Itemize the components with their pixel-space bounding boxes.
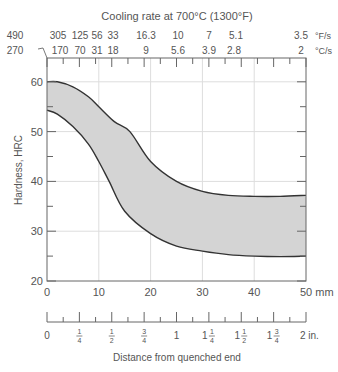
svg-text:1: 1 [202, 330, 208, 341]
leader-arrow-icon [38, 48, 47, 58]
x-tick-label-in: 14 [76, 328, 82, 344]
svg-text:2: 2 [242, 337, 246, 344]
svg-text:2: 2 [110, 337, 114, 344]
x-axis-mm: 01020304050 mm [44, 286, 334, 298]
svg-text:1: 1 [267, 330, 273, 341]
x-tick-label-in: 2 in. [300, 330, 319, 341]
y-tick-label: 40 [31, 175, 43, 187]
y-axis-label: Hardness, HRC [13, 135, 24, 205]
x-tick-label-in: 1 [174, 330, 180, 341]
cooling-rate-c-label: 2 [298, 45, 304, 56]
x-tick-label-mm: 0 [44, 286, 50, 298]
x-axis-label: Distance from quenched end [113, 352, 241, 363]
x-axis-inches: 014123411141121342 in. [44, 312, 319, 344]
cooling-rate-f-label: 56 [91, 30, 103, 41]
x-tick-label-in: 0 [44, 330, 50, 341]
x-tick-label-in: 34 [141, 328, 147, 344]
cooling-rate-f-label: 10 [172, 30, 184, 41]
x-tick-label-in: 12 [109, 328, 115, 344]
cooling-rate-f-label: 16.3 [136, 30, 156, 41]
cooling-rate-f-label: 7 [206, 30, 212, 41]
svg-text:1: 1 [77, 328, 81, 335]
svg-text:4: 4 [142, 337, 146, 344]
cooling-rate-f-label: 125 [72, 30, 89, 41]
svg-text:1: 1 [242, 328, 246, 335]
x-tick-label-mm: 30 [196, 286, 208, 298]
hardness-band [47, 81, 306, 256]
cooling-rate-f-label: 305 [50, 30, 67, 41]
jominy-hardness-chart: Cooling rate at 700°C (1300°F) 490305125… [0, 0, 338, 372]
svg-text:4: 4 [275, 337, 279, 344]
svg-text:3: 3 [275, 328, 279, 335]
x-tick-label-in: 112 [234, 328, 247, 344]
svg-text:4: 4 [77, 337, 81, 344]
svg-text:1: 1 [110, 328, 114, 335]
c-unit-label: °C/s [315, 46, 333, 56]
svg-text:3: 3 [142, 328, 146, 335]
x-tick-label-mm: 50 mm [300, 286, 334, 298]
svg-text:1: 1 [210, 328, 214, 335]
y-tick-label: 50 [31, 126, 43, 138]
x-tick-label-mm: 10 [93, 286, 105, 298]
cooling-rate-f-label: 5.1 [229, 30, 243, 41]
svg-text:4: 4 [210, 337, 214, 344]
svg-text:1: 1 [234, 330, 240, 341]
cooling-rate-f-label: 490 [7, 30, 24, 41]
cooling-rate-c-label: 31 [91, 45, 103, 56]
cooling-rate-c-label: 2.8 [227, 45, 241, 56]
cooling-rate-c-label: 170 [52, 45, 69, 56]
cooling-rate-c-label: 3.9 [202, 45, 216, 56]
x-tick-label-mm: 20 [144, 286, 156, 298]
cooling-rate-c-label: 18 [107, 45, 119, 56]
cooling-rate-c-label: 9 [143, 45, 149, 56]
cooling-rate-c-label: 270 [7, 45, 24, 56]
y-tick-label: 60 [31, 76, 43, 88]
chart-title: Cooling rate at 700°C (1300°F) [101, 10, 252, 22]
cooling-rate-f-label: 3.5 [294, 30, 308, 41]
y-tick-label: 20 [31, 275, 43, 287]
cooling-rate-f-label: 33 [107, 30, 119, 41]
f-unit-label: °F/s [315, 31, 332, 41]
cooling-rate-c-label: 5.6 [171, 45, 185, 56]
y-tick-label: 30 [31, 225, 43, 237]
x-tick-label-in: 134 [267, 328, 280, 344]
cooling-rate-scale: 490305125563316.31075.13.527017070311895… [7, 30, 333, 67]
x-tick-label-mm: 40 [248, 286, 260, 298]
x-tick-label-in: 114 [202, 328, 215, 344]
cooling-rate-c-label: 70 [74, 45, 86, 56]
